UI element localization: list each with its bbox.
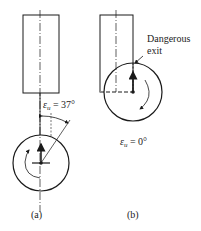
- annotation-exit: exit: [147, 45, 162, 56]
- rotation-arrow-a: [25, 150, 40, 178]
- rotation-arrow-b: [140, 80, 149, 109]
- rectangle-b: [100, 15, 133, 92]
- diagram: εu = 37° (a) Dangerous exit εu = 0° (b: [0, 0, 201, 231]
- panel-b: Dangerous exit εu = 0° (b): [100, 10, 190, 221]
- angle-label-a: εu = 37°: [43, 99, 75, 112]
- angle-line-a: [41, 120, 70, 163]
- annotation-dangerous: Dangerous: [147, 33, 190, 44]
- figure-canvas: εu = 37° (a) Dangerous exit εu = 0° (b: [0, 0, 201, 231]
- angle-label-b: εu = 0°: [120, 136, 147, 149]
- rectangle-a: [23, 15, 59, 93]
- angle-arc-a: [42, 116, 68, 123]
- exit-pointer: [135, 56, 143, 63]
- caption-b: (b): [127, 209, 139, 221]
- caption-a: (a): [31, 209, 42, 221]
- panel-a: εu = 37° (a): [13, 10, 75, 221]
